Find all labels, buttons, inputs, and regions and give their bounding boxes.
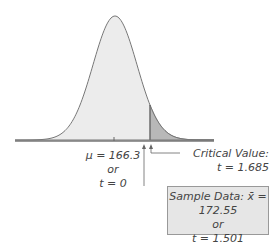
mean-value: μ = 166.3 xyxy=(70,149,156,163)
mean-t: t = 0 xyxy=(70,177,156,191)
mean-or: or xyxy=(70,163,156,177)
critical-title: Critical Value: xyxy=(183,147,269,161)
critical-region xyxy=(150,105,214,140)
sample-data-box: Sample Data: x̄ = 172.55 or t = 1.501 xyxy=(167,186,269,235)
critical-value-label: Critical Value: t = 1.685 xyxy=(183,147,273,175)
sample-t: t = 1.501 xyxy=(168,232,268,242)
sample-or: or xyxy=(168,218,268,232)
sample-value: Sample Data: x̄ = 172.55 xyxy=(168,190,268,218)
distribution-curve xyxy=(15,16,214,140)
critical-t: t = 1.685 xyxy=(183,161,269,175)
mean-label: μ = 166.3 or t = 0 xyxy=(70,149,156,191)
